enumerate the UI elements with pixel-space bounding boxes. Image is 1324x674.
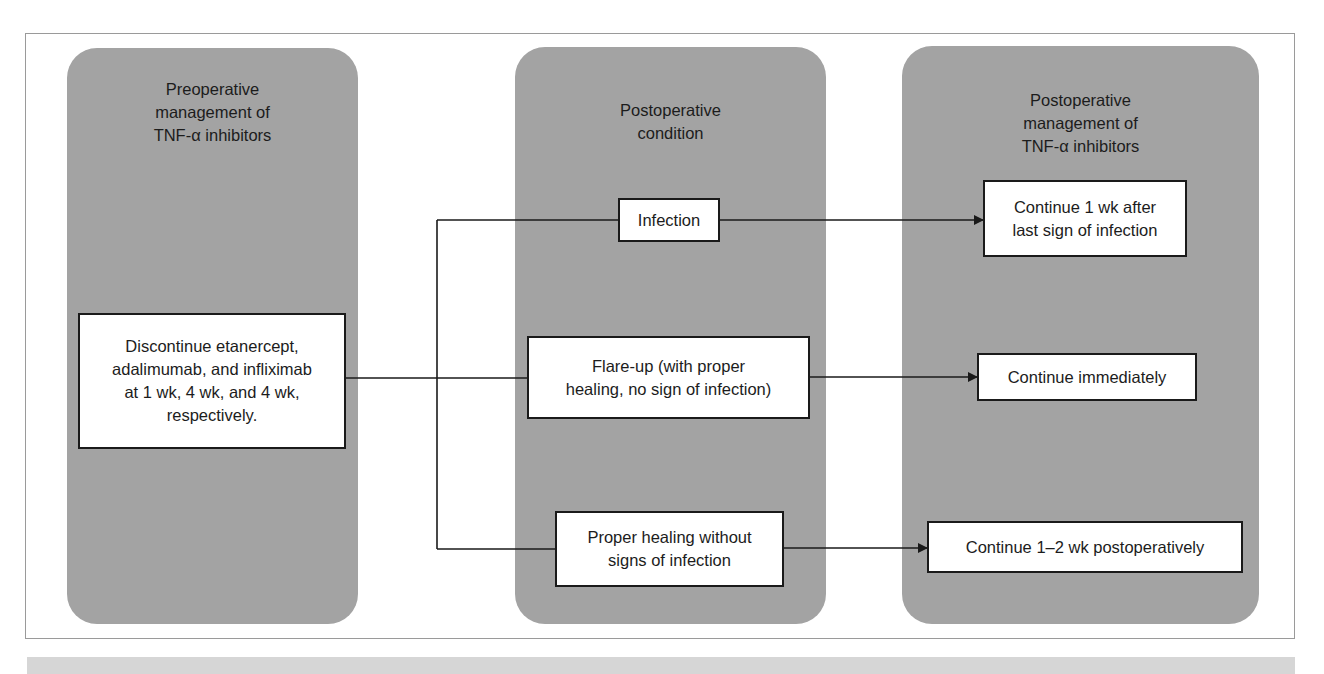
node-continue-immediately: Continue immediately bbox=[977, 353, 1197, 401]
panel-title-preoperative: Preoperative management of TNF-α inhibit… bbox=[67, 78, 358, 147]
node-continue-after-infection: Continue 1 wk after last sign of infecti… bbox=[983, 180, 1187, 257]
node-continue-1-2-wk: Continue 1–2 wk postoperatively bbox=[927, 521, 1243, 573]
node-flare-up: Flare-up (with proper healing, no sign o… bbox=[527, 336, 810, 419]
node-infection: Infection bbox=[618, 198, 720, 242]
node-discontinue: Discontinue etanercept, adalimumab, and … bbox=[78, 313, 346, 449]
panel-title-postoperative-management: Postoperative management of TNF-α inhibi… bbox=[902, 89, 1259, 158]
node-proper-healing: Proper healing without signs of infectio… bbox=[555, 511, 784, 587]
panel-title-postoperative-condition: Postoperative condition bbox=[515, 99, 826, 145]
caption-bar bbox=[27, 657, 1295, 674]
